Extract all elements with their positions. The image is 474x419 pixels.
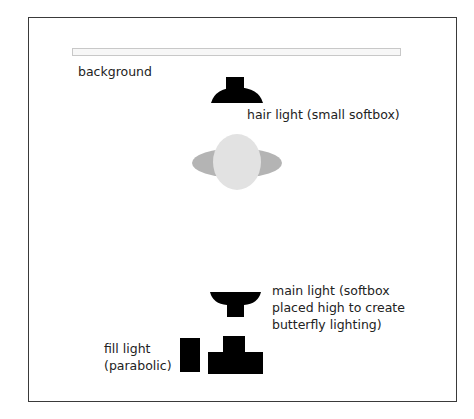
- lighting-diagram-shapes: [0, 0, 474, 419]
- hair-light-icon: [211, 77, 263, 103]
- camera-icon: [208, 336, 263, 374]
- main-light-label-line2: placed high to create: [272, 299, 405, 316]
- fill-light-label-line1: fill light: [104, 340, 151, 357]
- fill-light-icon: [180, 338, 200, 372]
- hair-light-label: hair light (small softbox): [247, 106, 400, 123]
- subject-icon: [192, 134, 282, 190]
- main-light-label-line1: main light (softbox: [272, 282, 390, 299]
- fill-light-label-line2: (parabolic): [104, 357, 172, 374]
- main-light-label-line3: butterfly lighting): [272, 316, 382, 333]
- main-light-icon: [210, 292, 261, 317]
